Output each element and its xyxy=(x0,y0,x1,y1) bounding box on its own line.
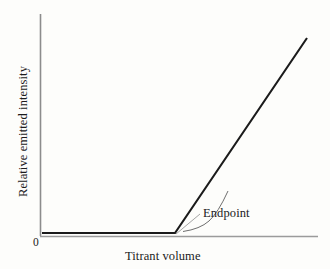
x-axis-label: Titrant volume xyxy=(125,249,201,264)
endpoint-annotation-label: Endpoint xyxy=(203,206,250,221)
origin-label: 0 xyxy=(33,236,39,248)
y-axis-label: Relative emitted intensity xyxy=(16,52,31,212)
titration-data-line xyxy=(42,38,307,233)
titration-curve-figure: Relative emitted intensity Titrant volum… xyxy=(0,0,330,269)
plot-canvas xyxy=(0,0,330,269)
